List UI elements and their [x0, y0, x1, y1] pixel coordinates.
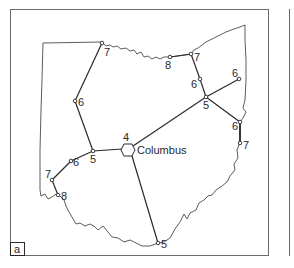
- node-label: 7: [194, 51, 200, 63]
- node-marker: [238, 120, 242, 124]
- node-marker: [73, 99, 77, 103]
- city-label-columbus: Columbus: [137, 144, 187, 156]
- route-ne-east: [206, 79, 239, 97]
- route-north-west: [170, 54, 191, 57]
- node-label: 6: [191, 78, 197, 90]
- route-network: [52, 43, 240, 243]
- ohio-route-map: 4 Columbus 7 6 5 6 7 8 5 8 7 6 5 6 6 7 a: [0, 0, 294, 268]
- node-marker: [156, 241, 160, 245]
- route-columbus-west: [93, 149, 122, 151]
- route-columbus-south: [132, 156, 158, 243]
- node-label: 5: [90, 153, 96, 165]
- route-nodes: [50, 41, 242, 245]
- node-label: 6: [232, 120, 238, 132]
- node-label: 7: [243, 139, 249, 151]
- columbus-hub-marker: [121, 144, 135, 156]
- state-outline: [40, 25, 246, 246]
- node-label: 6: [232, 67, 238, 79]
- node-label: 6: [73, 156, 79, 168]
- node-marker: [56, 193, 60, 197]
- node-label: 5: [161, 238, 167, 250]
- node-label: 7: [45, 168, 51, 180]
- route-southwest-2: [52, 161, 71, 180]
- node-label: 7: [104, 46, 110, 58]
- node-marker: [189, 52, 193, 56]
- node-marker: [198, 77, 202, 81]
- route-southwest-3: [52, 180, 58, 195]
- node-label: 8: [165, 59, 171, 71]
- node-marker: [238, 141, 242, 145]
- node-label: 5: [203, 99, 209, 111]
- route-columbus-northeast: [133, 97, 206, 146]
- node-label: 6: [78, 96, 84, 108]
- route-ne-southeast: [206, 97, 240, 122]
- node-label: 8: [61, 190, 67, 202]
- hub-value-label: 4: [123, 131, 129, 143]
- route-west-north: [75, 43, 102, 101]
- route-west-mid: [75, 101, 93, 151]
- node-marker: [100, 41, 104, 45]
- map-frame: [11, 10, 269, 256]
- route-ne-north: [200, 79, 206, 97]
- panel-label: a: [14, 243, 21, 255]
